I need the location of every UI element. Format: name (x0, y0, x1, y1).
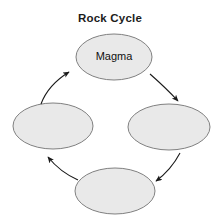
arrow-left-to-magma-icon (41, 72, 69, 104)
arrow-magma-to-right-icon (150, 74, 178, 101)
diagram-canvas (0, 0, 220, 221)
node-left[interactable] (13, 103, 93, 149)
node-magma-label: Magma (76, 50, 152, 62)
arrow-right-to-bottom-icon (156, 153, 180, 181)
node-right[interactable] (128, 104, 210, 150)
arrow-bottom-to-left-icon (48, 157, 78, 180)
rock-cycle-diagram: Rock Cycle Magma (0, 0, 220, 221)
node-bottom[interactable] (75, 168, 155, 214)
